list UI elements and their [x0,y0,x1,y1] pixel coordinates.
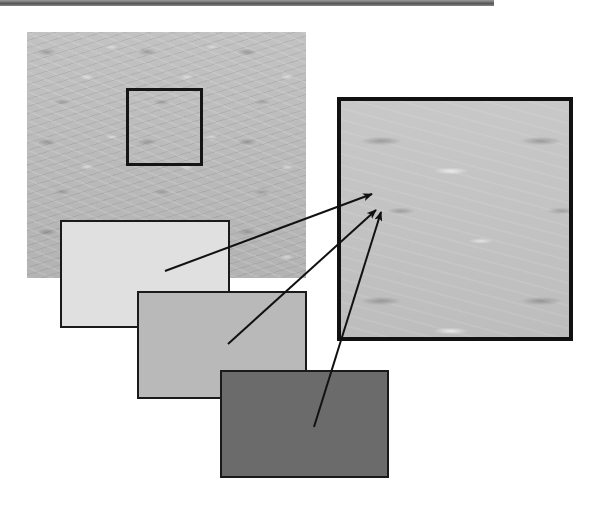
swatch-dark: dark tone [220,370,389,478]
magnified-view: magnified texture region [337,97,573,341]
top-divider-rule [0,0,494,6]
texture-image-label: textured surface (full view) [27,32,28,33]
swatch-label: light tone [62,222,63,223]
selection-box-label: selected region [129,91,130,92]
swatch-label: dark tone [222,372,223,373]
selection-box: selected region [126,88,203,166]
swatch-label: medium tone [139,293,140,294]
magnified-view-label: magnified texture region [341,101,342,102]
